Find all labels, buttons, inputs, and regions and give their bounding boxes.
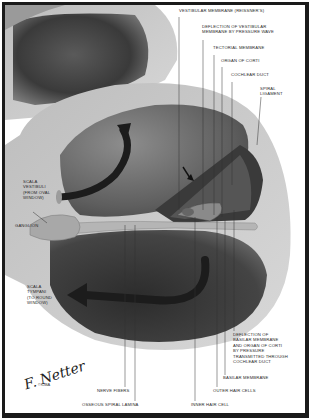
label-tectorial-membrane: TECTORIAL MEMBRANE xyxy=(213,45,264,50)
copyright-mark: ©CIBA xyxy=(38,382,50,387)
label-osseous-spiral-lamina: OSSEOUS SPIRAL LAMINA xyxy=(82,402,139,407)
label-outer-hair-cells: OUTER HAIR CELLS xyxy=(213,388,256,393)
label-deflection-vestibular: DEFLECTION OF VESTIBULAR MEMBRANE BY PRE… xyxy=(202,24,274,35)
label-nerve-fibers: NERVE FIBERS xyxy=(97,388,129,393)
label-scala-vestibuli: SCALA VESTIBULI (FROM OVAL WINDOW) xyxy=(23,179,50,201)
label-organ-of-corti: ORGAN OF CORTI xyxy=(221,58,260,63)
figure-frame: VESTIBULAR MEMBRANE (REISSNER'S) DEFLECT… xyxy=(2,2,309,418)
label-cochlear-duct: COCHLEAR DUCT xyxy=(231,72,269,77)
label-ganglion: GANGLION xyxy=(15,223,38,228)
label-scala-tympani: SCALA TYMPANI (TO ROUND WINDOW) xyxy=(27,284,52,306)
label-basilar-membrane: BASILAR MEMBRANE xyxy=(223,375,268,380)
label-spiral-ligament: SPIRAL LIGAMENT xyxy=(260,86,283,97)
label-vestibular-membrane: VESTIBULAR MEMBRANE (REISSNER'S) xyxy=(179,8,264,13)
label-deflection-basilar: DEFLECTION OF BASILAR MEMBRANE AND ORGAN… xyxy=(233,332,288,364)
label-inner-hair-cell: INNER HAIR CELL xyxy=(191,402,229,407)
